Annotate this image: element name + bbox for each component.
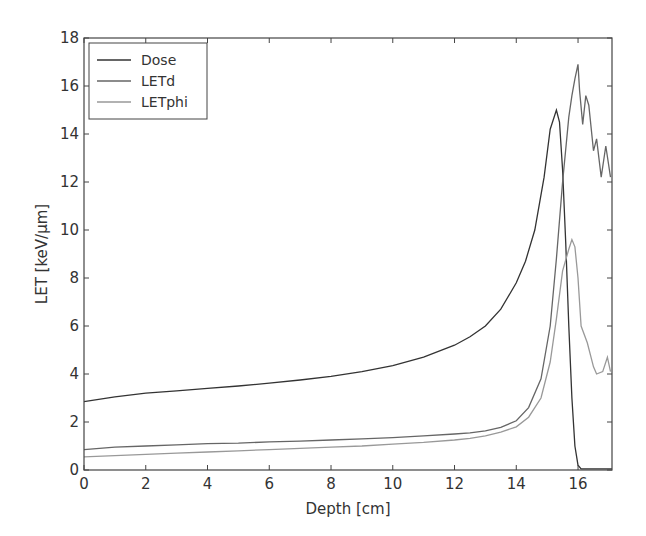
y-tick-label: 2 bbox=[69, 413, 79, 431]
y-tick-label: 8 bbox=[69, 269, 79, 287]
y-tick-label: 10 bbox=[60, 221, 79, 239]
x-tick-label: 14 bbox=[507, 475, 526, 493]
y-tick-label: 14 bbox=[60, 125, 79, 143]
x-tick-label: 12 bbox=[445, 475, 464, 493]
legend-label-letd: LETd bbox=[141, 73, 175, 89]
x-tick-label: 2 bbox=[141, 475, 151, 493]
series-line-dose bbox=[84, 110, 612, 469]
x-tick-label: 4 bbox=[203, 475, 213, 493]
x-tick-label: 16 bbox=[568, 475, 587, 493]
y-tick-label: 18 bbox=[60, 29, 79, 47]
y-axis-label: LET [keV/μm] bbox=[33, 204, 51, 304]
y-tick-label: 0 bbox=[69, 461, 79, 479]
legend-label-letphi: LETphi bbox=[141, 94, 188, 110]
x-tick-label: 0 bbox=[79, 475, 89, 493]
y-tick-label: 16 bbox=[60, 77, 79, 95]
line-chart: 0246810121416 024681012141618 Depth [cm]… bbox=[0, 0, 646, 536]
y-tick-label: 12 bbox=[60, 173, 79, 191]
x-tick-label: 10 bbox=[383, 475, 402, 493]
x-tick-label: 8 bbox=[326, 475, 336, 493]
x-tick-label: 6 bbox=[264, 475, 274, 493]
legend: DoseLETdLETphi bbox=[89, 43, 207, 119]
y-tick-label: 4 bbox=[69, 365, 79, 383]
x-axis-label: Depth [cm] bbox=[305, 500, 390, 518]
plot-area bbox=[84, 64, 612, 468]
series-line-letphi bbox=[84, 240, 611, 457]
legend-label-dose: Dose bbox=[141, 52, 176, 68]
y-tick-label: 6 bbox=[69, 317, 79, 335]
